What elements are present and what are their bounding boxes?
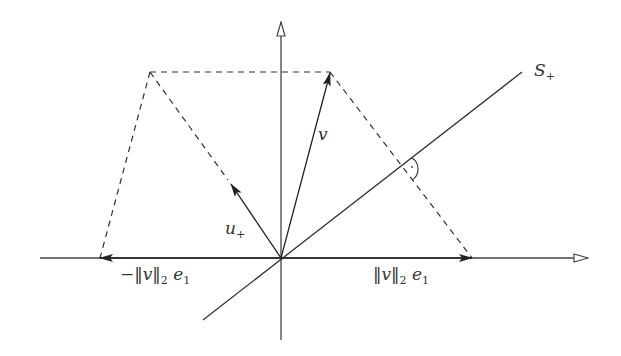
label-v: v [318, 124, 328, 144]
label-pos-norm-e1: ‖v‖2 e1 [373, 264, 429, 284]
label-s-plus: S+ [534, 60, 555, 80]
label-neg-norm-e1: −‖v‖2 e1 [120, 264, 190, 284]
s-plus-line [203, 72, 522, 320]
right-angle-mark [412, 158, 418, 180]
vector-v [281, 73, 330, 258]
diagram-canvas [0, 0, 621, 356]
dashed-construction [100, 72, 472, 258]
label-u-plus: u+ [225, 218, 245, 238]
